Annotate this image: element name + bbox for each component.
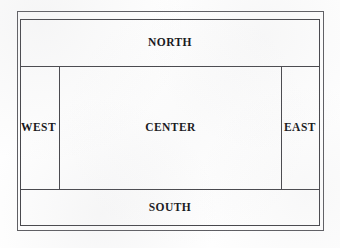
region-north-label: NORTH — [148, 37, 192, 49]
border-layout-middle-row: WEST CENTER EAST — [20, 66, 320, 190]
region-south: SOUTH — [20, 189, 320, 226]
region-center-label: CENTER — [145, 122, 196, 134]
border-layout-container: NORTH WEST CENTER EAST SOUTH — [20, 19, 320, 226]
region-west-label: WEST — [21, 122, 56, 134]
region-south-label: SOUTH — [149, 202, 192, 214]
region-east: EAST — [281, 66, 320, 190]
region-west: WEST — [20, 66, 60, 190]
region-north: NORTH — [20, 19, 320, 67]
region-east-label: EAST — [282, 122, 316, 134]
diagram-canvas: NORTH WEST CENTER EAST SOUTH — [0, 0, 340, 248]
region-center: CENTER — [59, 66, 282, 190]
